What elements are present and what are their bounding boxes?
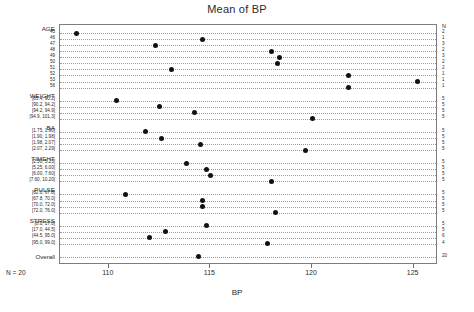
level-label: [44.5, 95.0] <box>32 234 55 239</box>
group-title-stress: STRESS <box>30 217 55 224</box>
data-point[interactable] <box>147 235 152 240</box>
n-value: 5 <box>442 209 445 214</box>
data-point[interactable] <box>196 254 201 259</box>
x-tick-label: 125 <box>407 269 419 276</box>
x-tick <box>311 264 312 268</box>
n-value: 5 <box>442 191 445 196</box>
level-label: [72.0, 76.0] <box>32 209 55 214</box>
n-value: 6 <box>442 234 445 239</box>
leader-line <box>60 207 436 208</box>
leader-line <box>60 232 436 233</box>
leader-line <box>60 150 436 151</box>
leader-line <box>60 181 436 182</box>
n-value: 5 <box>442 103 445 108</box>
data-point[interactable] <box>163 229 168 234</box>
data-point[interactable] <box>269 49 274 54</box>
leader-line <box>60 119 436 120</box>
main-effects-dotplot: Mean of BP 45464748495051525356AGE[85.4,… <box>0 0 474 312</box>
group-title-age: AGE <box>42 25 55 32</box>
data-point[interactable] <box>310 116 315 121</box>
n-value: 2 <box>442 60 445 65</box>
leader-line <box>60 175 436 176</box>
data-point[interactable] <box>204 223 209 228</box>
x-tick-label: 110 <box>102 269 113 276</box>
n-value: 5 <box>442 172 445 177</box>
data-point[interactable] <box>159 136 164 141</box>
data-point[interactable] <box>123 192 128 197</box>
data-point[interactable] <box>415 79 420 84</box>
data-point[interactable] <box>143 129 148 134</box>
leader-line <box>60 88 436 89</box>
level-label: 56 <box>50 84 55 89</box>
leader-line <box>60 144 436 145</box>
n-value: 1 <box>442 84 445 89</box>
n-value: 5 <box>442 228 445 233</box>
n-value: 5 <box>442 178 445 183</box>
n-value: 5 <box>442 166 445 171</box>
data-point[interactable] <box>74 31 79 36</box>
data-point[interactable] <box>204 167 209 172</box>
group-title-ba: BA <box>47 124 55 131</box>
leader-line <box>60 226 436 227</box>
n-value: 5 <box>442 147 445 152</box>
n-value: 3 <box>442 54 445 59</box>
data-point[interactable] <box>200 204 205 209</box>
data-point[interactable] <box>200 198 205 203</box>
leader-line <box>60 51 436 52</box>
leader-line <box>60 107 436 108</box>
data-point[interactable] <box>269 179 274 184</box>
leader-line <box>60 163 436 164</box>
data-point[interactable] <box>277 55 282 60</box>
data-point[interactable] <box>198 142 203 147</box>
leader-line <box>60 82 436 83</box>
data-point[interactable] <box>184 161 189 166</box>
data-point[interactable] <box>346 73 351 78</box>
n-value: 20 <box>442 254 447 259</box>
x-axis: 110115120125 <box>59 264 437 284</box>
n-value: 5 <box>442 203 445 208</box>
data-point[interactable] <box>192 110 197 115</box>
x-tick-label: 120 <box>305 269 317 276</box>
n-value: 4 <box>442 241 445 246</box>
data-point[interactable] <box>275 61 280 66</box>
leader-line <box>60 132 436 133</box>
data-point[interactable] <box>265 241 270 246</box>
n-value: 2 <box>442 66 445 71</box>
data-point[interactable] <box>346 85 351 90</box>
n-value: 1 <box>442 72 445 77</box>
leader-line <box>60 69 436 70</box>
n-value: 5 <box>442 141 445 146</box>
level-label: [17.0, 44.5] <box>32 228 55 233</box>
level-label: [6.00, 7.60] <box>32 172 55 177</box>
data-point[interactable] <box>169 67 174 72</box>
n-value: 5 <box>442 115 445 120</box>
data-point[interactable] <box>303 148 308 153</box>
level-label: 50 <box>50 60 55 65</box>
leader-line <box>60 113 436 114</box>
group-title-weight: WEIGHT <box>30 92 55 99</box>
data-point[interactable] <box>153 43 158 48</box>
level-label: [2.07, 2.29] <box>32 147 55 152</box>
x-tick <box>209 264 210 268</box>
sample-size-note: N = 20 <box>6 269 26 276</box>
data-point[interactable] <box>273 210 278 215</box>
leader-line <box>60 75 436 76</box>
data-rows-layer <box>60 25 436 263</box>
leader-line <box>60 201 436 202</box>
leader-line <box>60 138 436 139</box>
leader-line <box>60 213 436 214</box>
leader-line <box>60 45 436 46</box>
leader-line <box>60 169 436 170</box>
n-value: 5 <box>442 109 445 114</box>
level-label: 49 <box>50 54 55 59</box>
n-value: 2 <box>442 48 445 53</box>
n-value: 1 <box>442 36 445 41</box>
level-label: 48 <box>50 48 55 53</box>
data-point[interactable] <box>208 173 213 178</box>
data-point[interactable] <box>157 104 162 109</box>
level-label: 47 <box>50 42 55 47</box>
leader-line <box>60 33 436 34</box>
n-column: N21323221115555555555555555556420 <box>440 24 474 264</box>
data-point[interactable] <box>200 37 205 42</box>
data-point[interactable] <box>114 98 119 103</box>
